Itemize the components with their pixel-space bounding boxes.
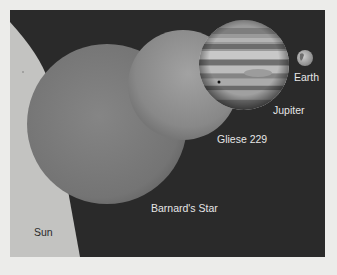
jupiter-label: Jupiter xyxy=(273,105,305,116)
earth-label: Earth xyxy=(294,72,319,83)
barnards-star-label: Barnard's Star xyxy=(151,203,218,214)
jupiter-body xyxy=(199,20,289,110)
earth-body xyxy=(297,50,313,66)
illustration-frame: Earth Jupiter Gliese 229 Barnard's Star … xyxy=(10,10,325,257)
gliese-229-label: Gliese 229 xyxy=(217,134,267,145)
bodies-canvas xyxy=(10,10,325,257)
sun-label: Sun xyxy=(34,227,53,238)
sun-speck xyxy=(22,71,24,73)
